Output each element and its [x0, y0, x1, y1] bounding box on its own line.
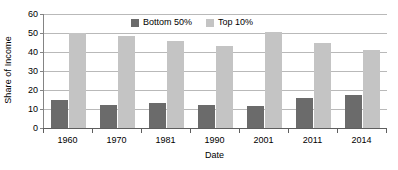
bar-top-10-2014	[363, 50, 380, 128]
legend-label: Bottom 50%	[143, 18, 192, 27]
y-axis-tick-label: 0	[33, 124, 38, 133]
bar-top-10-1970	[118, 36, 135, 128]
bar-bottom-50-1970	[100, 105, 117, 128]
legend-swatch-icon	[206, 19, 214, 27]
x-axis-tick-label: 1990	[190, 134, 239, 148]
y-axis-tick-labels: 0102030405060	[16, 8, 40, 132]
y-axis-tick-label: 60	[28, 10, 38, 19]
x-axis-tick-label: 1981	[141, 134, 190, 148]
bar-top-10-2001	[265, 32, 282, 128]
x-axis-tick-mark	[386, 129, 387, 133]
bar-group	[142, 14, 191, 128]
bars-layer	[44, 14, 387, 128]
bar-group	[338, 14, 387, 128]
y-axis-tick-label: 20	[28, 86, 38, 95]
plot-area	[43, 14, 387, 128]
x-axis-tick-label: 2001	[239, 134, 288, 148]
bar-top-10-1960	[69, 33, 86, 128]
chart-legend: Bottom 50%Top 10%	[128, 17, 256, 28]
x-axis-tick-marks	[43, 129, 386, 133]
y-axis-tick-label: 40	[28, 48, 38, 57]
legend-entry: Top 10%	[206, 18, 253, 27]
x-axis-tick-mark	[337, 129, 338, 133]
legend-entry: Bottom 50%	[131, 18, 192, 27]
x-axis-tick-mark	[239, 129, 240, 133]
x-axis-tick-label: 1960	[43, 134, 92, 148]
bar-bottom-50-1990	[198, 105, 215, 128]
bar-group	[240, 14, 289, 128]
x-axis-tick-label: 2011	[288, 134, 337, 148]
x-axis-tick-mark	[190, 129, 191, 133]
bar-group	[289, 14, 338, 128]
legend-swatch-icon	[131, 19, 139, 27]
bar-bottom-50-2011	[296, 98, 313, 128]
y-axis-title-label: Share of Income	[3, 36, 13, 104]
bar-chart: Share of Income 0102030405060 1960197019…	[0, 0, 398, 170]
y-axis-tick-label: 50	[28, 29, 38, 38]
y-axis-tick-label: 10	[28, 105, 38, 114]
bar-bottom-50-1981	[149, 103, 166, 128]
bar-top-10-1981	[167, 41, 184, 128]
bar-bottom-50-2014	[345, 95, 362, 128]
x-axis-tick-label: 2014	[337, 134, 386, 148]
x-axis-tick-labels: 1960197019811990200120112014	[43, 134, 386, 148]
legend-label: Top 10%	[218, 18, 253, 27]
bar-group	[191, 14, 240, 128]
y-axis-title: Share of Income	[0, 0, 16, 140]
bar-bottom-50-1960	[51, 100, 68, 128]
bar-bottom-50-2001	[247, 106, 264, 128]
bar-group	[44, 14, 93, 128]
x-axis-tick-mark	[288, 129, 289, 133]
x-axis-tick-label: 1970	[92, 134, 141, 148]
x-axis-title: Date	[43, 150, 386, 161]
y-axis-tick-label: 30	[28, 67, 38, 76]
bar-top-10-2011	[314, 43, 331, 128]
bar-top-10-1990	[216, 46, 233, 128]
x-axis-tick-mark	[43, 129, 44, 133]
x-axis-tick-mark	[92, 129, 93, 133]
x-axis-tick-mark	[141, 129, 142, 133]
bar-group	[93, 14, 142, 128]
